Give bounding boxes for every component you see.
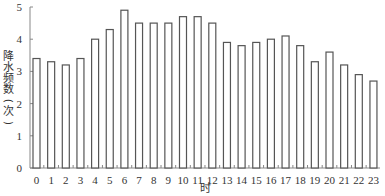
bar-hour-6 xyxy=(121,10,128,168)
x-tick-label: 8 xyxy=(151,174,157,186)
y-tick-label: 5 xyxy=(17,1,23,13)
x-tick-label: 4 xyxy=(92,174,98,186)
bar-hour-19 xyxy=(311,62,318,168)
x-axis-title: 时 xyxy=(200,182,211,195)
x-tick-label: 10 xyxy=(178,174,190,186)
x-tick-label: 21 xyxy=(339,174,350,186)
bar-hour-10 xyxy=(180,17,187,168)
x-tick-label: 16 xyxy=(265,174,277,186)
x-tick-label: 13 xyxy=(221,174,233,186)
bar-hour-15 xyxy=(253,42,260,168)
y-axis: 012345 xyxy=(17,1,34,174)
x-tick-label: 7 xyxy=(136,174,142,186)
x-tick-label: 2 xyxy=(63,174,69,186)
bar-hour-20 xyxy=(326,52,333,168)
bar-hour-17 xyxy=(282,36,289,168)
bar-hour-13 xyxy=(223,42,230,168)
x-tick-label: 9 xyxy=(166,174,172,186)
x-tick-label: 22 xyxy=(353,174,364,186)
bar-hour-2 xyxy=(62,65,69,168)
x-tick-label: 18 xyxy=(295,174,307,186)
bar-hour-1 xyxy=(48,62,55,168)
x-tick-label: 3 xyxy=(78,174,84,186)
x-tick-label: 6 xyxy=(122,174,128,186)
y-axis-title-char: ) xyxy=(2,121,15,125)
y-axis-title: 降水频数(次) xyxy=(2,49,15,125)
y-tick-label: 2 xyxy=(17,98,23,110)
y-tick-label: 4 xyxy=(17,33,23,45)
x-tick-label: 15 xyxy=(251,174,263,186)
bar-hour-11 xyxy=(194,17,201,168)
bar-hour-22 xyxy=(355,75,362,168)
x-tick-label: 19 xyxy=(309,174,321,186)
bar-hour-8 xyxy=(150,23,157,168)
bar-hour-14 xyxy=(238,46,245,168)
x-tick-label: 0 xyxy=(34,174,40,186)
bar-hour-23 xyxy=(370,81,377,168)
x-tick-label: 14 xyxy=(236,174,248,186)
bar-hour-0 xyxy=(33,59,40,168)
bars xyxy=(33,10,377,168)
bar-hour-18 xyxy=(297,46,304,168)
bar-hour-21 xyxy=(341,65,348,168)
x-tick-label: 1 xyxy=(48,174,54,186)
bar-hour-7 xyxy=(136,23,143,168)
x-tick-label: 20 xyxy=(324,174,336,186)
y-tick-label: 1 xyxy=(17,130,23,142)
bar-hour-12 xyxy=(209,23,216,168)
x-tick-label: 17 xyxy=(280,174,292,186)
bar-hour-9 xyxy=(165,23,172,168)
precipitation-frequency-bar-chart: 012345 012345678910111213141516171819202… xyxy=(0,0,385,196)
y-axis-title-char: 次 xyxy=(3,104,14,118)
y-axis-title-char: ( xyxy=(2,99,15,103)
bar-hour-16 xyxy=(267,39,274,168)
bar-hour-5 xyxy=(106,30,113,168)
bar-hour-3 xyxy=(77,59,84,168)
y-tick-label: 0 xyxy=(17,162,23,174)
y-axis-title-char: 数 xyxy=(3,83,14,96)
y-tick-label: 3 xyxy=(17,65,23,77)
x-tick-label: 23 xyxy=(368,174,380,186)
x-tick-label: 5 xyxy=(107,174,113,186)
bar-hour-4 xyxy=(92,39,99,168)
